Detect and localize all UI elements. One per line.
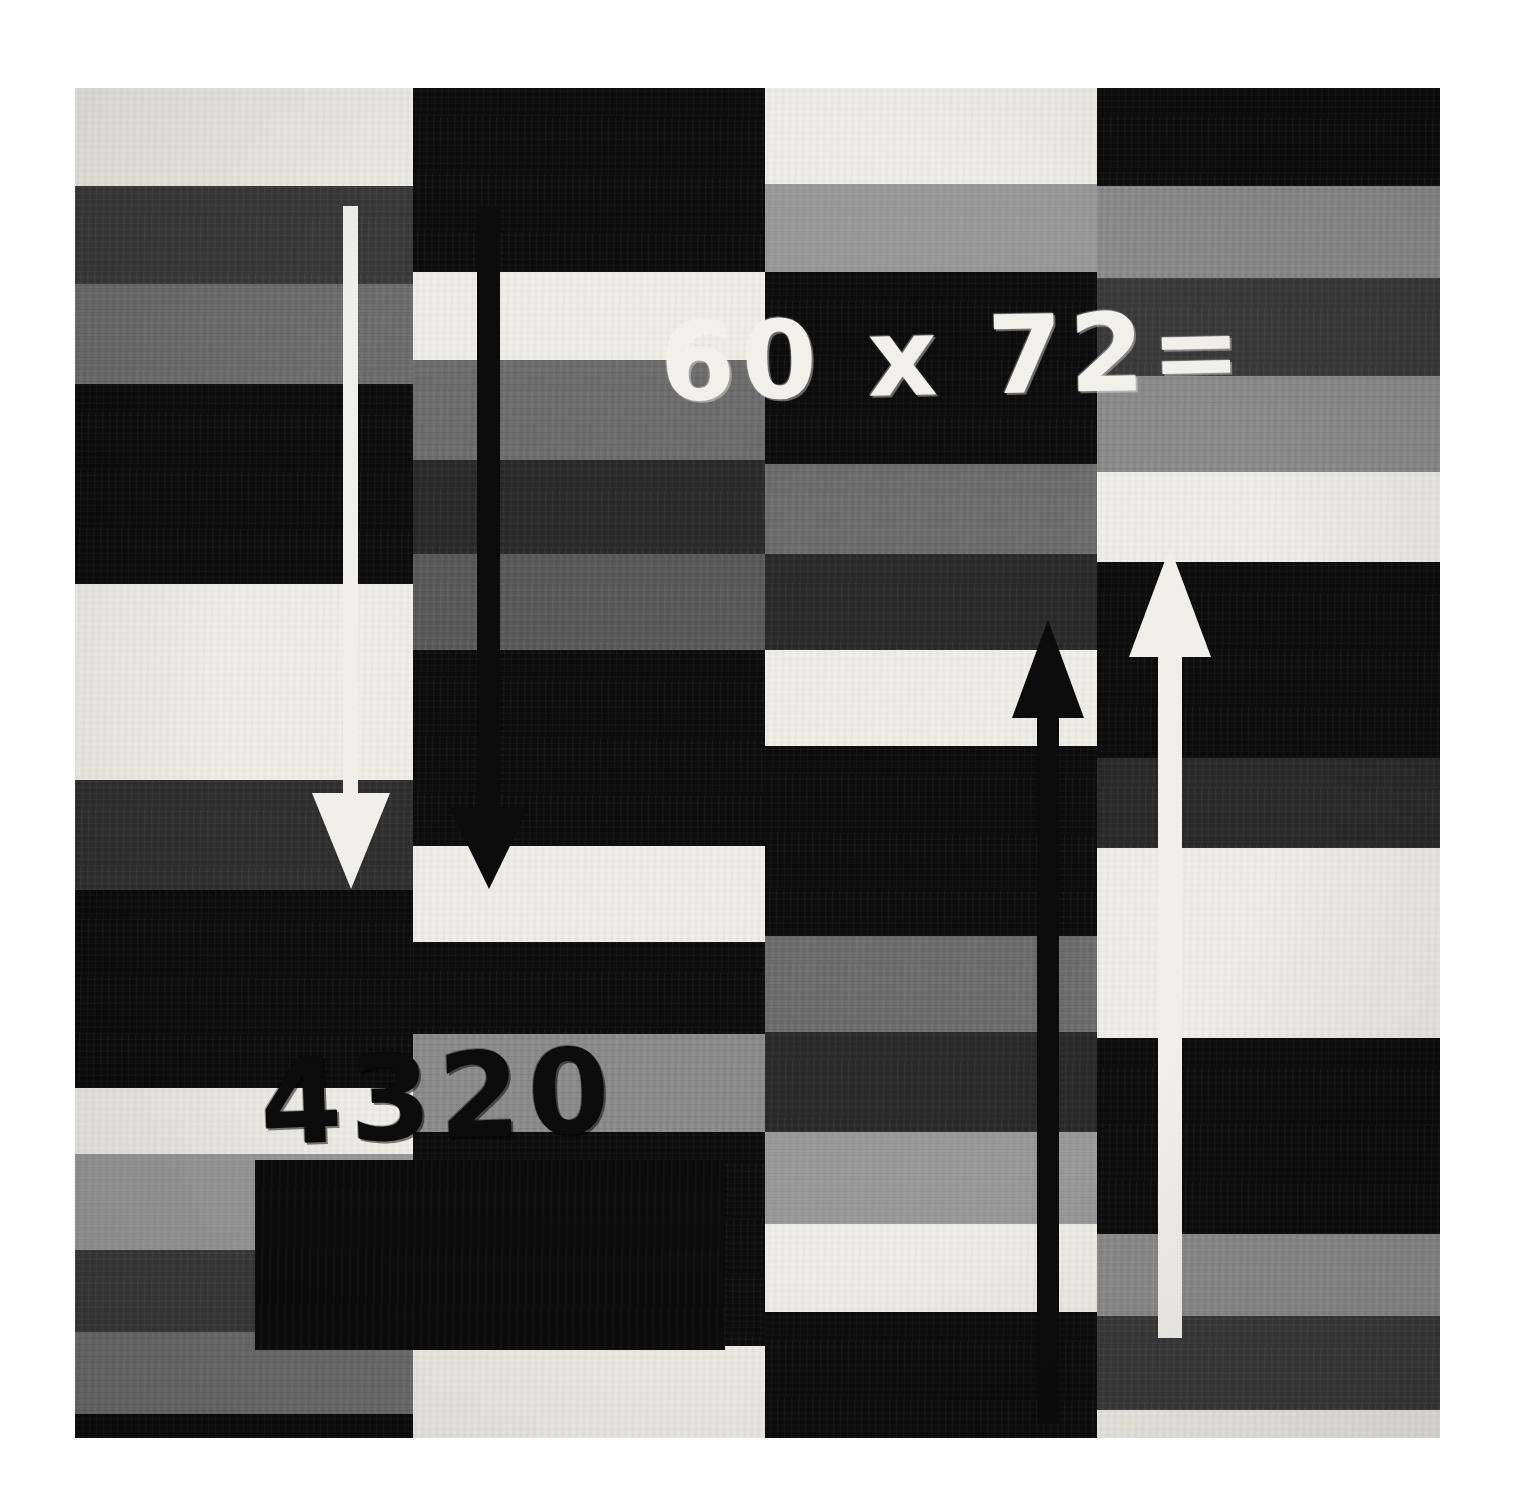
band-2-9 xyxy=(413,1034,765,1132)
arrow-down-white-left xyxy=(343,206,358,846)
band-3-4 xyxy=(765,464,1097,554)
band-2-2 xyxy=(413,272,765,360)
band-2-3 xyxy=(413,360,765,460)
arrow-down-white-left-head xyxy=(312,793,390,889)
band-4-2 xyxy=(1097,186,1440,278)
band-1-11 xyxy=(75,1332,413,1414)
band-1-1 xyxy=(75,88,413,186)
band-2-5 xyxy=(413,554,765,650)
page-canvas: 60 x 72= 4320 xyxy=(0,0,1516,1511)
band-4-7 xyxy=(1097,758,1440,848)
band-4-11 xyxy=(1097,1316,1440,1410)
band-4-3 xyxy=(1097,278,1440,376)
arrow-up-white-far-right-head xyxy=(1129,547,1211,657)
painting-column-1 xyxy=(75,88,413,1438)
band-1-9 xyxy=(75,1154,413,1250)
arrow-down-black-inner-head xyxy=(449,807,529,889)
band-2-10 xyxy=(413,1132,765,1346)
band-1-10 xyxy=(75,1250,413,1332)
band-4-8 xyxy=(1097,848,1440,1038)
painting-column-4 xyxy=(1097,88,1440,1438)
arrow-down-black-inner-shaft xyxy=(477,206,500,852)
arrow-up-black-right-head xyxy=(1012,620,1084,718)
arrow-up-black-right-shaft xyxy=(1037,664,1059,1424)
band-4-9 xyxy=(1097,1038,1440,1234)
arrow-down-white-left-shaft xyxy=(343,206,358,846)
band-4-10 xyxy=(1097,1234,1440,1316)
band-2-1 xyxy=(413,88,765,272)
arrow-up-black-right xyxy=(1037,664,1059,1424)
arrow-down-black-inner xyxy=(477,206,500,852)
band-3-2 xyxy=(765,184,1097,272)
band-1-4 xyxy=(75,384,413,584)
band-1-7 xyxy=(75,890,413,1088)
band-2-11 xyxy=(413,1346,765,1438)
band-2-4 xyxy=(413,460,765,554)
artwork-plate: 60 x 72= 4320 xyxy=(75,88,1440,1438)
band-2-8 xyxy=(413,942,765,1034)
band-1-12 xyxy=(75,1414,413,1438)
band-4-1 xyxy=(1097,88,1440,186)
band-1-3 xyxy=(75,284,413,384)
band-1-5 xyxy=(75,584,413,780)
arrow-up-white-far-right xyxy=(1158,596,1182,1338)
band-1-2 xyxy=(75,186,413,284)
band-4-4 xyxy=(1097,376,1440,472)
band-3-1 xyxy=(765,88,1097,184)
band-3-3 xyxy=(765,272,1097,464)
band-1-8 xyxy=(75,1088,413,1154)
painting-column-2 xyxy=(413,88,765,1438)
arrow-up-white-far-right-shaft xyxy=(1158,596,1182,1338)
band-4-12 xyxy=(1097,1410,1440,1438)
